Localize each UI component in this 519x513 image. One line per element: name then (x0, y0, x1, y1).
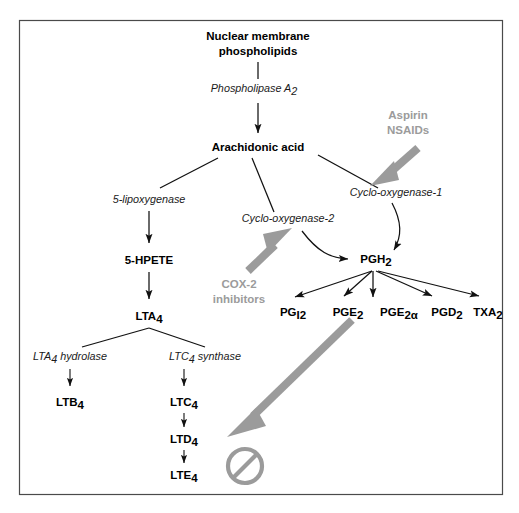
node-5-hpete: 5-HPETE (125, 254, 174, 266)
enzyme-cyclo-oxygenase-2: Cyclo-oxygenase-2 (242, 212, 334, 224)
pathway-svg: Nuclear membrane phospholipids Phospholi… (0, 0, 519, 513)
node-nuclear-membrane-line2: phospholipids (219, 45, 298, 57)
enzyme-cyclo-oxygenase-1: Cyclo-oxygenase-1 (350, 186, 442, 198)
node-arachidonic-acid: Arachidonic acid (212, 141, 305, 153)
enzyme-5-lipoxygenase: 5-lipoxygenase (113, 193, 186, 205)
drug-cox2-inhibitors-line1: COX-2 (221, 278, 256, 290)
drug-aspirin-line1: Aspirin (388, 109, 428, 121)
node-nuclear-membrane-line1: Nuclear membrane (206, 30, 310, 42)
drug-aspirin-line2: NSAIDs (387, 124, 429, 136)
drug-cox2-inhibitors-line2: inhibitors (213, 293, 265, 305)
pathway-diagram: Nuclear membrane phospholipids Phospholi… (0, 0, 519, 513)
